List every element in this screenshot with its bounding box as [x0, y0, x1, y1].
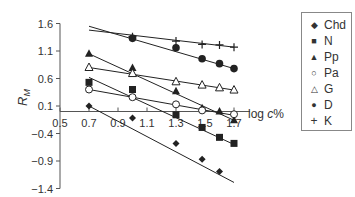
plus-icon: + — [308, 114, 320, 128]
triangle-filled-marker — [216, 107, 224, 115]
legend-item-pp: ▲Pp — [308, 49, 339, 65]
triangle-filled-icon: ▲ — [308, 52, 320, 62]
legend-item-k: +K — [308, 113, 332, 129]
x-tick-label: 0.7 — [81, 117, 96, 129]
y-axis-label: RM — [15, 89, 32, 106]
plus-marker — [172, 37, 180, 45]
circle-filled-icon: ● — [308, 100, 320, 110]
plus-marker — [230, 43, 238, 51]
square-filled-marker — [216, 134, 223, 141]
square-filled-marker — [86, 79, 93, 86]
circle-open-marker — [173, 101, 180, 108]
square-filled-icon: ■ — [308, 36, 320, 46]
triangle-filled-marker — [85, 49, 93, 57]
diamond-filled-marker — [199, 156, 206, 163]
diamond-filled-icon: ◆ — [308, 20, 320, 30]
diamond-filled-marker — [173, 140, 180, 147]
circle-open-marker — [86, 86, 93, 93]
plus-marker — [216, 41, 224, 49]
y-tick-label: −0.4 — [31, 128, 53, 140]
x-axis-label: log c% — [248, 107, 284, 121]
legend: ◆Chd ■N ▲Pp ○Pa △G ●D +K — [301, 12, 352, 131]
legend-item-g: △G — [308, 81, 333, 97]
plus-marker — [198, 40, 206, 48]
y-tick-label: 1.1 — [38, 45, 53, 57]
circle-open-icon: ○ — [308, 68, 320, 78]
y-tick-label: −1.4 — [31, 183, 53, 195]
circle-filled-marker — [198, 55, 206, 63]
square-filled-marker — [173, 111, 180, 118]
triangle-open-marker — [85, 63, 93, 71]
square-filled-marker — [199, 124, 206, 131]
trendlines — [89, 26, 234, 182]
square-filled-marker — [231, 140, 238, 147]
y-tick-label: 0.6 — [38, 73, 53, 85]
triangle-open-icon: △ — [308, 84, 320, 94]
y-tick-label: 1.6 — [38, 18, 53, 30]
legend-item-pa: ○Pa — [308, 65, 339, 81]
trendline-k — [89, 30, 234, 47]
circle-open-marker — [199, 107, 206, 114]
legend-item-chd: ◆Chd — [308, 17, 346, 33]
square-filled-marker — [129, 86, 136, 93]
triangle-filled-marker — [172, 87, 180, 95]
x-tick-label: 1.1 — [139, 117, 154, 129]
circle-open-marker — [129, 94, 136, 101]
y-tick-label: −0.9 — [31, 155, 53, 167]
circle-filled-marker — [230, 65, 238, 73]
diamond-filled-marker — [86, 103, 93, 110]
legend-item-n: ■N — [308, 33, 333, 49]
circle-filled-marker — [216, 60, 224, 68]
data-markers — [85, 33, 238, 175]
circle-open-marker — [231, 111, 238, 118]
diamond-filled-marker — [129, 115, 136, 122]
legend-item-d: ●D — [308, 97, 333, 113]
y-tick-label: 0.1 — [38, 100, 53, 112]
x-tick-label: 0.5 — [52, 117, 67, 129]
axes: 1.61.10.60.1−0.4−0.9−1.40.50.70.91.11.31… — [31, 18, 250, 195]
